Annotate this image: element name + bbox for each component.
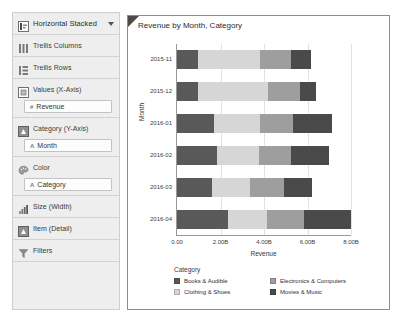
gridline: [308, 44, 309, 235]
bar-row[interactable]: 2016-01: [177, 114, 332, 133]
legend-item[interactable]: Clothing & Shoes: [174, 289, 270, 295]
y-axis-tick-label: 2016-03: [150, 178, 172, 197]
bar-row[interactable]: 2016-03: [177, 178, 312, 197]
y-axis-tick-label: 2016-04: [150, 210, 172, 229]
legend-label: Clothing & Shoes: [184, 289, 230, 295]
shelf-item-detail[interactable]: Item (Detail): [13, 218, 119, 240]
legend-item[interactable]: Electronics & Computers: [270, 278, 380, 284]
legend-swatch: [174, 289, 180, 295]
chart-legend: Category Books & AudibleElectronics & Co…: [174, 266, 374, 295]
bar-segment[interactable]: [260, 50, 292, 69]
bar-segment[interactable]: [177, 82, 198, 101]
y-axis-tick-label: 2015-11: [150, 50, 172, 69]
trellis-columns-icon: [18, 40, 29, 51]
bar-segment[interactable]: [291, 50, 311, 69]
y-axis-tick-label: 2016-02: [150, 146, 172, 165]
bar-segment[interactable]: [177, 114, 214, 133]
bar-segment[interactable]: [198, 50, 260, 69]
shelf-trellis-rows[interactable]: Trellis Rows: [13, 57, 119, 79]
bar-segment[interactable]: [228, 210, 267, 229]
shelf-size-width[interactable]: Size (Width): [13, 196, 119, 218]
shelf-label: Values (X-Axis): [33, 86, 81, 93]
bar-segment[interactable]: [268, 82, 300, 101]
x-axis-tick-label: 8.00B: [343, 239, 359, 245]
field-pill-label: Month: [37, 142, 56, 149]
bar-segment[interactable]: [259, 146, 292, 165]
item-detail-icon: [18, 223, 29, 234]
bar-row[interactable]: 2016-02: [177, 146, 329, 165]
bar-row[interactable]: 2015-12: [177, 82, 316, 101]
legend-label: Electronics & Computers: [280, 278, 346, 284]
bar-segment[interactable]: [177, 210, 228, 229]
legend-swatch: [270, 289, 276, 295]
bar-segment[interactable]: [177, 146, 217, 165]
shelf-trellis-columns[interactable]: Trellis Columns: [13, 35, 119, 57]
bar-segment[interactable]: [250, 178, 284, 197]
shelf-label: Color: [33, 164, 50, 171]
category-axis-icon: [18, 123, 29, 134]
shelf-label: Filters: [33, 247, 52, 254]
filter-funnel-icon: [18, 245, 29, 256]
x-axis-tick-label: 0.00: [171, 239, 183, 245]
bar-segment[interactable]: [177, 50, 198, 69]
x-axis-label: Revenue: [176, 250, 351, 257]
chart-builder-screen: Horizontal Stacked Trellis Columns: [0, 0, 403, 323]
gridline: [221, 44, 222, 235]
bar-segment[interactable]: [300, 82, 316, 101]
bar-segment[interactable]: [293, 114, 332, 133]
shelf-category-y-axis[interactable]: Category (Y-Axis) A Month: [13, 118, 119, 157]
legend-label: Books & Audible: [184, 278, 228, 284]
legend-label: Movies & Music: [280, 289, 322, 295]
x-axis-tick-label: 4.00B: [256, 239, 272, 245]
legend-item[interactable]: Books & Audible: [174, 278, 270, 284]
dimension-glyph-icon: A: [30, 182, 34, 188]
field-pill-label: Revenue: [36, 103, 64, 110]
bar-segment[interactable]: [260, 114, 294, 133]
dimension-glyph-icon: A: [30, 143, 34, 149]
bar-segment[interactable]: [267, 210, 304, 229]
legend-items: Books & AudibleElectronics & ComputersCl…: [174, 278, 374, 295]
bar-segment[interactable]: [214, 114, 260, 133]
shelf-label: Size (Width): [33, 203, 72, 210]
color-palette-icon: [18, 162, 29, 173]
field-pill-revenue[interactable]: # Revenue: [24, 100, 112, 113]
bar-row[interactable]: 2016-04: [177, 210, 351, 229]
chart-title: Revenue by Month, Category: [138, 21, 242, 30]
bar-segment[interactable]: [304, 210, 351, 229]
values-axis-icon: [18, 84, 29, 95]
bar-segment[interactable]: [212, 178, 250, 197]
chart-type-selector[interactable]: Horizontal Stacked: [13, 13, 119, 35]
sidebar-empty-space: [13, 262, 119, 309]
x-axis-tick-label: 6.00B: [300, 239, 316, 245]
shelf-label: Item (Detail): [33, 225, 72, 232]
y-axis-tick-label: 2016-01: [150, 114, 172, 133]
gridline: [264, 44, 265, 235]
legend-item[interactable]: Movies & Music: [270, 289, 380, 295]
x-axis-tick-label: 2.00B: [213, 239, 229, 245]
size-width-icon: [18, 201, 29, 212]
bar-segment[interactable]: [177, 178, 212, 197]
plot-area: 2015-112015-122016-012016-022016-032016-…: [176, 44, 351, 236]
chart-panel: Revenue by Month, Category Month 2015-11…: [127, 15, 390, 310]
bar-chart-icon: [18, 18, 29, 29]
field-pill-month[interactable]: A Month: [24, 139, 112, 152]
measure-glyph-icon: #: [30, 104, 33, 110]
bar-row[interactable]: 2015-11: [177, 50, 311, 69]
gridline: [351, 44, 352, 235]
field-pill-category[interactable]: A Category: [24, 178, 112, 191]
field-pill-label: Category: [37, 181, 65, 188]
chevron-down-icon[interactable]: [108, 22, 114, 26]
shelf-label: Trellis Rows: [33, 64, 71, 71]
chart-config-sidebar: Horizontal Stacked Trellis Columns: [12, 12, 120, 310]
bar-segment[interactable]: [198, 82, 269, 101]
bar-segment[interactable]: [291, 146, 329, 165]
chart-type-label: Horizontal Stacked: [33, 19, 97, 28]
bar-segment[interactable]: [284, 178, 312, 197]
shelf-values-x-axis[interactable]: Values (X-Axis) # Revenue: [13, 79, 119, 118]
shelf-color[interactable]: Color A Category: [13, 157, 119, 196]
trellis-rows-icon: [18, 62, 29, 73]
bar-segment[interactable]: [217, 146, 258, 165]
legend-swatch: [174, 278, 180, 284]
shelf-filters[interactable]: Filters: [13, 240, 119, 262]
legend-swatch: [270, 278, 276, 284]
